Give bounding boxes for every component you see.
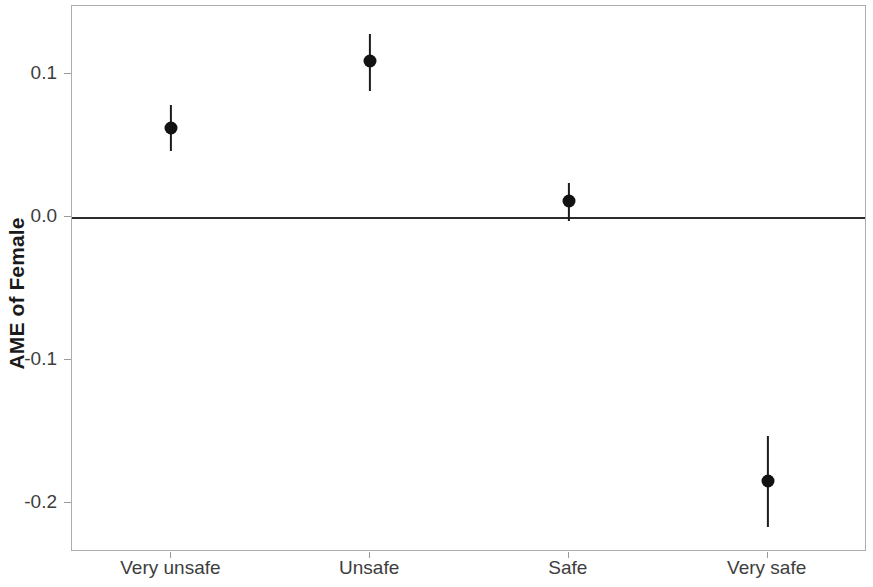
- data-point: [562, 195, 575, 208]
- y-axis-tick-mark: [64, 216, 71, 217]
- x-axis-tick-label: Very unsafe: [120, 557, 220, 579]
- x-axis-tick-label: Very safe: [727, 557, 806, 579]
- data-point: [165, 122, 178, 135]
- data-series-ame-of-female: [72, 6, 865, 550]
- x-axis-tick-label: Safe: [548, 557, 587, 579]
- data-point: [761, 475, 774, 488]
- y-axis-tick-label: 0.0: [0, 205, 57, 227]
- plot-panel: [71, 5, 866, 551]
- y-axis-tick-mark: [64, 359, 71, 360]
- y-axis-tick-label: -0.2: [0, 491, 57, 513]
- y-axis-tick-label: -0.1: [0, 348, 57, 370]
- plot-area: [72, 6, 865, 550]
- chart-figure: AME of Female 0.10.0-0.1-0.2 Very unsafe…: [0, 0, 873, 587]
- data-point: [364, 55, 377, 68]
- y-axis-tick-label: 0.1: [0, 62, 57, 84]
- y-axis-tick-mark: [64, 73, 71, 74]
- y-axis-tick-mark: [64, 502, 71, 503]
- x-axis-tick-label: Unsafe: [339, 557, 399, 579]
